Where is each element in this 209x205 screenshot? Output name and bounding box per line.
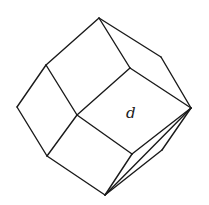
rhombic-dodecahedron-figure: d <box>0 0 209 205</box>
edge-top-upper_left <box>46 18 99 65</box>
edge-bottom-right <box>105 108 191 195</box>
edge-upper_inner-center <box>77 68 130 115</box>
edge-upper_left-center <box>46 65 77 115</box>
edge-bottom-lower_outer_right <box>105 150 162 195</box>
edge-right-upper_outer_right <box>161 57 191 108</box>
polyhedron-edges <box>17 18 191 195</box>
edge-upper_left-left <box>17 65 46 107</box>
edge-center-lower_left <box>47 115 77 156</box>
edge-lower_left-bottom <box>47 156 105 195</box>
edge-lower_inner_right-right <box>132 108 191 154</box>
edge-center-lower_inner_right <box>77 115 132 154</box>
edge-upper_inner-right <box>130 68 191 108</box>
edge-lower_outer_right-right <box>162 108 191 150</box>
edge-lower_inner_right-bottom <box>105 154 132 195</box>
face-label-d: d <box>126 104 136 122</box>
edge-top-upper_inner <box>99 18 130 68</box>
edge-left-lower_left <box>17 107 47 156</box>
edge-upper_outer_right-top <box>99 18 161 57</box>
